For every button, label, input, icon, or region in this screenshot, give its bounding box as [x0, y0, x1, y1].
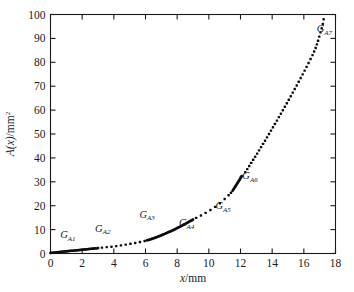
data-point-6-35	[313, 50, 315, 52]
x-tick-label-8: 16	[298, 257, 310, 269]
data-point-6-18	[280, 112, 282, 114]
data-point-1-8	[139, 241, 141, 243]
data-series-markers	[49, 18, 325, 254]
data-point-6-20	[284, 106, 286, 108]
data-point-6-31	[305, 66, 307, 68]
y-tick-label-3: 30	[34, 176, 46, 188]
data-point-6-13	[270, 129, 272, 131]
data-point-3-1	[200, 214, 202, 216]
data-point-6-23	[290, 95, 292, 97]
data-point-1-3	[115, 245, 117, 247]
x-tick-label-2: 4	[111, 257, 117, 269]
y-tick-label-7: 70	[34, 80, 46, 92]
data-point-6-43	[322, 18, 324, 20]
plot-frame	[51, 15, 336, 254]
x-tick-label-4: 8	[174, 257, 180, 269]
annotation-G_A5: GA5	[215, 200, 231, 214]
y-tick-label-10: 100	[28, 9, 46, 21]
data-point-6-19	[282, 109, 284, 111]
data-point-6-33	[309, 58, 311, 60]
data-point-6-28	[299, 77, 301, 79]
chart-figure: 024681012141618 0102030405060708090100 G…	[0, 0, 354, 292]
x-tick-label-7: 14	[266, 257, 278, 269]
data-point-6-24	[292, 91, 294, 93]
data-point-6-29	[301, 73, 303, 75]
data-point-6-15	[274, 123, 276, 125]
annotation-G_A3: GA3	[139, 209, 155, 223]
data-point-6-9	[262, 143, 264, 145]
y-tick-label-0: 0	[40, 248, 46, 260]
annotation-G_A6: GA6	[242, 170, 258, 184]
svg-text:A(x)/mm2: A(x)/mm2	[4, 111, 17, 157]
annotation-G_A7: GA7	[317, 23, 333, 37]
x-axis-tick-labels: 024681012141618	[48, 257, 342, 269]
segment-G_A6	[231, 175, 243, 192]
data-point-6-11	[266, 136, 268, 138]
y-tick-label-5: 50	[34, 128, 46, 140]
x-tick-label-9: 18	[330, 257, 342, 269]
data-point-6-39	[318, 35, 320, 37]
data-point-3-6	[223, 198, 225, 200]
data-point-6-16	[276, 119, 278, 121]
data-point-1-7	[134, 242, 136, 244]
x-axis-ticks	[51, 15, 336, 254]
y-tick-label-1: 10	[34, 224, 46, 236]
data-point-6-12	[268, 133, 270, 135]
data-point-3-0	[195, 217, 197, 219]
data-point-3-2	[204, 212, 206, 214]
data-point-6-25	[294, 88, 296, 90]
data-point-6-27	[297, 81, 299, 83]
data-point-1-1	[106, 246, 108, 248]
y-axis-ticks	[51, 15, 336, 254]
data-point-6-22	[288, 99, 290, 101]
x-axis-title: x/mm	[179, 272, 206, 284]
data-point-6-6	[256, 152, 258, 154]
segment-G_A5	[230, 192, 232, 194]
y-tick-label-6: 60	[34, 104, 46, 116]
y-tick-label-2: 20	[34, 200, 46, 212]
y-tick-label-4: 40	[34, 152, 46, 164]
data-point-6-7	[258, 149, 260, 151]
data-point-0-40	[97, 247, 100, 250]
y-tick-label-8: 80	[34, 56, 46, 68]
x-tick-label-6: 12	[235, 257, 247, 269]
data-point-6-38	[317, 40, 319, 42]
y-axis-tick-labels: 0102030405060708090100	[28, 9, 46, 260]
x-tick-label-1: 2	[79, 257, 85, 269]
segment-G_A2	[101, 240, 146, 249]
data-point-4-0	[230, 192, 232, 194]
data-point-6-14	[272, 126, 274, 128]
y-axis-title: A(x)/mm2	[4, 111, 17, 157]
data-point-1-0	[101, 246, 103, 248]
data-point-6-4	[252, 159, 254, 161]
y-tick-label-9: 90	[34, 32, 46, 44]
svg-text:x/mm: x/mm	[179, 272, 206, 284]
x-tick-label-5: 10	[203, 257, 215, 269]
data-point-6-3	[250, 162, 252, 164]
data-point-3-3	[209, 209, 211, 211]
annotation-G_A1: GA1	[60, 229, 75, 243]
x-tick-label-3: 6	[143, 257, 149, 269]
annotation-G_A2: GA2	[95, 223, 111, 237]
data-point-1-2	[110, 245, 112, 247]
data-point-6-8	[260, 146, 262, 148]
data-point-6-17	[278, 116, 280, 118]
data-point-6-36	[315, 47, 317, 49]
data-point-6-10	[264, 139, 266, 141]
data-point-6-26	[296, 84, 298, 86]
data-point-6-30	[303, 69, 305, 71]
x-tick-label-0: 0	[48, 257, 54, 269]
data-point-6-37	[316, 43, 318, 45]
chart-canvas: 024681012141618 0102030405060708090100 G…	[0, 0, 354, 292]
segment-G_A7	[244, 18, 325, 173]
data-point-6-32	[307, 62, 309, 64]
data-point-2-44	[192, 218, 195, 221]
data-point-1-5	[125, 243, 127, 245]
data-point-6-34	[311, 54, 313, 56]
data-point-6-2	[248, 165, 250, 167]
data-point-1-4	[120, 244, 122, 246]
data-point-1-9	[144, 240, 146, 242]
data-point-6-5	[254, 156, 256, 158]
data-point-6-21	[286, 102, 288, 104]
data-point-1-6	[129, 243, 131, 245]
